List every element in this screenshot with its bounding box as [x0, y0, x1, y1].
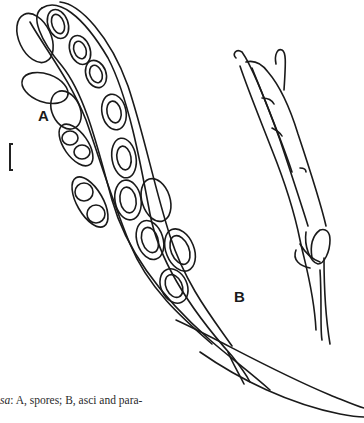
caption-italic-fragment: sa: [0, 394, 10, 406]
asci-drawing: [0, 0, 364, 423]
figure-illustration: A B sa: A, spores; B, asci and para-: [0, 0, 364, 423]
label-b: B: [234, 289, 245, 304]
scale-bar: [9, 143, 13, 171]
paraphyses-group: [234, 50, 330, 344]
caption-text: : A, spores; B, asci and para-: [10, 394, 142, 406]
figure-caption: sa: A, spores; B, asci and para-: [0, 394, 142, 406]
spores-group: [10, 8, 116, 233]
label-a: A: [38, 108, 49, 123]
